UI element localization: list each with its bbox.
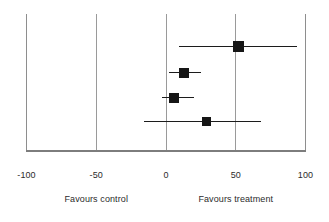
point-estimate-marker xyxy=(179,68,189,78)
plot-area: -100-50050100Favours controlFavours trea… xyxy=(0,0,329,222)
favours-control-label: Favours control xyxy=(64,194,128,204)
gridline-0 xyxy=(166,14,167,150)
x-tick-label-100: 100 xyxy=(298,170,313,180)
x-tick-label-0: 0 xyxy=(163,170,168,180)
forest-plot: -100-50050100Favours controlFavours trea… xyxy=(0,0,329,222)
gridline--50 xyxy=(96,14,97,150)
x-tick-label--100: -100 xyxy=(17,170,35,180)
x-tick-label-50: 50 xyxy=(231,170,241,180)
x-tick-label--50: -50 xyxy=(90,170,103,180)
gridline-50 xyxy=(235,14,236,150)
point-estimate-marker xyxy=(233,41,244,52)
point-estimate-marker xyxy=(202,117,211,126)
gridline-100 xyxy=(305,14,306,150)
x-axis-baseline xyxy=(26,150,306,152)
favours-treatment-label: Favours treatment xyxy=(198,194,273,204)
point-estimate-marker xyxy=(169,93,179,103)
gridline--100 xyxy=(26,14,27,150)
